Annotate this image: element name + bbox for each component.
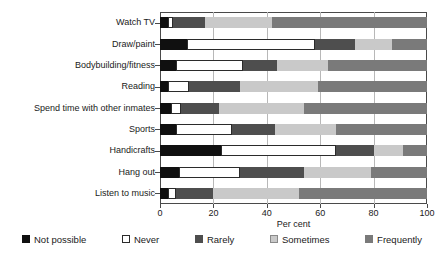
x-tick-label: 40 <box>247 208 287 219</box>
legend-swatch-never-icon <box>122 235 130 243</box>
bar-segment[interactable] <box>160 145 221 156</box>
bar-segment[interactable] <box>336 145 373 156</box>
bar-segment[interactable] <box>160 60 176 71</box>
x-tick-label: 60 <box>300 208 340 219</box>
bar-segment[interactable] <box>221 145 336 156</box>
legend-item[interactable]: Frequently <box>365 234 422 245</box>
category-label: Hang out <box>0 167 155 178</box>
plot-area <box>160 12 427 204</box>
bar-segment[interactable] <box>240 167 304 178</box>
x-tick-label: 100 <box>407 208 439 219</box>
y-tick-mark <box>155 23 160 24</box>
y-tick-mark <box>155 129 160 130</box>
bar-segment[interactable] <box>275 124 336 135</box>
legend-item-label: Never <box>134 234 159 245</box>
legend-item-label: Rarely <box>207 234 234 245</box>
bar-row[interactable] <box>160 145 427 156</box>
bar-segment[interactable] <box>243 60 278 71</box>
y-tick-mark <box>155 44 160 45</box>
bar-segment[interactable] <box>160 39 187 50</box>
bar-row[interactable] <box>160 188 427 199</box>
bar-segment[interactable] <box>304 103 427 114</box>
bar-segment[interactable] <box>304 167 371 178</box>
y-tick-mark <box>155 108 160 109</box>
legend-swatch-sometimes-icon <box>270 235 278 243</box>
bar-segment[interactable] <box>318 81 427 92</box>
bar-segment[interactable] <box>168 188 176 199</box>
bar-segment[interactable] <box>181 103 218 114</box>
x-axis-title: Per cent <box>160 219 427 229</box>
category-label: Bodybuilding/fitness <box>0 60 155 71</box>
bar-row[interactable] <box>160 39 427 50</box>
bar-segment[interactable] <box>355 39 392 50</box>
y-tick-mark <box>155 172 160 173</box>
bar-segment[interactable] <box>315 39 355 50</box>
bar-segment[interactable] <box>336 124 427 135</box>
bar-segment[interactable] <box>328 60 427 71</box>
category-label: Draw/paint <box>0 39 155 50</box>
x-tick-label: 20 <box>193 208 233 219</box>
bar-segment[interactable] <box>205 17 272 28</box>
bar-segment[interactable] <box>176 188 213 199</box>
x-tick-label: 0 <box>140 208 180 219</box>
bar-segment[interactable] <box>189 81 240 92</box>
y-tick-mark <box>155 65 160 66</box>
bar-segment[interactable] <box>213 188 298 199</box>
bar-segment[interactable] <box>168 81 189 92</box>
bar-segment[interactable] <box>179 167 240 178</box>
category-label: Reading <box>0 81 155 92</box>
bar-row[interactable] <box>160 60 427 71</box>
bar-segment[interactable] <box>176 60 243 71</box>
bar-segment[interactable] <box>392 39 427 50</box>
bar-segment[interactable] <box>374 145 403 156</box>
legend-item[interactable]: Rarely <box>195 234 234 245</box>
y-tick-mark <box>155 151 160 152</box>
legend-swatch-rarely-icon <box>195 235 203 243</box>
bar-segment[interactable] <box>187 39 315 50</box>
bar-segment[interactable] <box>160 124 176 135</box>
bar-segment[interactable] <box>299 188 427 199</box>
bar-segment[interactable] <box>160 103 171 114</box>
category-label: Watch TV <box>0 17 155 28</box>
legend-item-label: Not possible <box>34 234 86 245</box>
bar-segment[interactable] <box>371 167 427 178</box>
y-tick-mark <box>155 87 160 88</box>
legend-item-label: Sometimes <box>282 234 330 245</box>
bar-segment[interactable] <box>272 17 427 28</box>
bar-segment[interactable] <box>171 103 182 114</box>
bar-segment[interactable] <box>176 124 232 135</box>
category-label: Handicrafts <box>0 145 155 156</box>
bar-segment[interactable] <box>173 17 205 28</box>
bar-segment[interactable] <box>240 81 317 92</box>
stacked-bar-chart: Watch TVDraw/paintBodybuilding/fitnessRe… <box>0 0 439 254</box>
bar-segment[interactable] <box>403 145 427 156</box>
bar-row[interactable] <box>160 167 427 178</box>
bar-row[interactable] <box>160 81 427 92</box>
legend-item-label: Frequently <box>377 234 422 245</box>
bar-rows <box>160 12 427 204</box>
bar-segment[interactable] <box>160 167 179 178</box>
bar-segment[interactable] <box>160 17 168 28</box>
legend-item[interactable]: Never <box>122 234 159 245</box>
bar-segment[interactable] <box>219 103 304 114</box>
bar-row[interactable] <box>160 103 427 114</box>
chart-legend: Not possibleNeverRarelySometimesFrequent… <box>22 231 422 247</box>
legend-item[interactable]: Not possible <box>22 234 86 245</box>
bar-segment[interactable] <box>160 188 168 199</box>
x-tick-label: 80 <box>354 208 394 219</box>
bar-row[interactable] <box>160 17 427 28</box>
bar-segment[interactable] <box>232 124 275 135</box>
category-label: Spend time with other inmates <box>0 103 155 114</box>
legend-item[interactable]: Sometimes <box>270 234 330 245</box>
bar-row[interactable] <box>160 124 427 135</box>
category-label: Listen to music <box>0 188 155 199</box>
y-tick-mark <box>155 193 160 194</box>
legend-swatch-not-possible-icon <box>22 235 30 243</box>
bar-segment[interactable] <box>277 60 328 71</box>
legend-swatch-frequently-icon <box>365 235 373 243</box>
bar-segment[interactable] <box>160 81 168 92</box>
category-label: Sports <box>0 124 155 135</box>
